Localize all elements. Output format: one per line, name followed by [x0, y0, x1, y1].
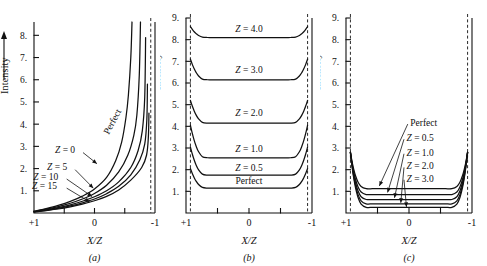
x-tick-label: -1 — [468, 217, 476, 228]
y-tick-label: 9. — [172, 13, 179, 23]
axes: 1.2.3.4.5.6.7.8.+10-1IntensityX/Z(a) — [0, 22, 159, 264]
x-tick-label: +1 — [29, 217, 40, 228]
y-tick-label: 4. — [332, 122, 339, 132]
leader-line — [401, 167, 404, 202]
panel-c: 1.2.3.4.5.6.7.8.9.+10-1IntensityX/Z(c)Pe… — [320, 0, 487, 266]
x-tick-label: 0 — [407, 217, 412, 228]
y-tick-label: 1. — [332, 187, 339, 197]
y-tick-label: 8. — [20, 31, 27, 41]
x-axis-title: X/Z — [400, 235, 416, 246]
x-tick-label: -1 — [308, 217, 316, 228]
y-tick-label: 5. — [332, 100, 339, 110]
x-tick-label: -1 — [151, 217, 159, 228]
plot-b: 1.2.3.4.5.6.7.8.9.+10-1IntensityX/Z(b)Z … — [160, 0, 325, 266]
curve-labels: Z = 4.0Z = 3.0Z = 2.0Z = 1.0Z = 0.5Perfe… — [235, 24, 263, 186]
curve-label: Z = 0.5 — [235, 163, 263, 173]
y-tick-label: 7. — [332, 57, 339, 67]
y-tick-label: 2. — [20, 164, 27, 174]
y-tick-label: 9. — [332, 13, 339, 23]
y-axis-arrow-head — [1, 31, 7, 39]
y-tick-label: 6. — [20, 75, 27, 85]
panel-caption: (a) — [89, 252, 101, 264]
x-tick-label: 0 — [92, 217, 97, 228]
curve-label: Z = 1.0 — [406, 148, 434, 158]
curve-label: Z = 4.0 — [235, 24, 263, 34]
axes: 1.2.3.4.5.6.7.8.9.+10-1IntensityX/Z(c) — [320, 13, 476, 264]
curve-label: Z = 2.0 — [235, 108, 263, 118]
curve-label: Perfect — [410, 118, 437, 128]
y-tick-label: 3. — [172, 143, 179, 153]
y-axis-title: Intensity — [320, 53, 322, 90]
curve-label: Z = 0 — [55, 145, 75, 155]
annotations: PerfectZ = 0.5Z = 1.0Z = 2.0Z = 3.0 — [379, 118, 437, 207]
figure-root: 1.2.3.4.5.6.7.8.+10-1IntensityX/Z(a)Z = … — [0, 0, 487, 266]
plot-c: 1.2.3.4.5.6.7.8.9.+10-1IntensityX/Z(c)Pe… — [320, 0, 487, 266]
y-tick-label: 8. — [332, 35, 339, 45]
plot-a: 1.2.3.4.5.6.7.8.+10-1IntensityX/Z(a)Z = … — [0, 0, 165, 266]
y-tick-label: 1. — [20, 186, 27, 196]
curve-label: Z = 3.0 — [406, 174, 434, 184]
x-tick-label: 0 — [247, 217, 252, 228]
leader-line — [395, 154, 404, 198]
curve-label: Z = 5 — [47, 162, 67, 172]
y-tick-label: 3. — [20, 142, 27, 152]
x-axis-title: X/Z — [86, 235, 102, 246]
x-tick-label: +1 — [181, 217, 192, 228]
y-tick-label: 5. — [20, 97, 27, 107]
y-tick-label: 4. — [20, 120, 27, 130]
y-tick-label: 5. — [172, 100, 179, 110]
panel-caption: (b) — [243, 252, 255, 264]
y-tick-label: 3. — [332, 143, 339, 153]
panel-a: 1.2.3.4.5.6.7.8.+10-1IntensityX/Z(a)Z = … — [0, 0, 165, 266]
curve-label-perfect: Perfect — [102, 107, 124, 136]
y-axis-title: Intensity — [0, 57, 10, 94]
y-tick-label: 7. — [172, 57, 179, 67]
curve-label: Z = 1.0 — [235, 144, 263, 154]
y-tick-label: 8. — [172, 35, 179, 45]
panel-b: 1.2.3.4.5.6.7.8.9.+10-1IntensityX/Z(b)Z … — [160, 0, 325, 266]
leader-line — [67, 179, 92, 197]
y-tick-label: 2. — [172, 165, 179, 175]
y-tick-label: 6. — [172, 78, 179, 88]
y-tick-label: 6. — [332, 78, 339, 88]
y-tick-label: 2. — [332, 165, 339, 175]
y-axis-title: Intensity — [160, 53, 162, 90]
curve-label: Z = 15 — [32, 181, 57, 191]
curve-label: Perfect — [236, 176, 263, 186]
x-tick-label: +1 — [341, 217, 352, 228]
curve-label: Z = 2.0 — [406, 161, 434, 171]
y-tick-label: 7. — [20, 53, 27, 63]
curve-label: Z = 3.0 — [235, 65, 263, 75]
y-tick-label: 1. — [172, 187, 179, 197]
leader-arrowhead — [393, 193, 397, 198]
y-tick-label: 4. — [172, 122, 179, 132]
axes: 1.2.3.4.5.6.7.8.9.+10-1IntensityX/Z(b) — [160, 13, 316, 264]
annotations: Z = 0Z = 5Z = 10Z = 15Perfect — [32, 107, 123, 202]
panel-caption: (c) — [403, 252, 415, 264]
x-axis-title: X/Z — [240, 235, 256, 246]
curve-label: Z = 0.5 — [406, 133, 434, 143]
